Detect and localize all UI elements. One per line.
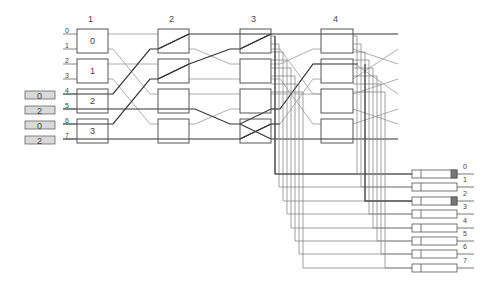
stage-label-2: 2 xyxy=(169,14,174,24)
svg-text:5: 5 xyxy=(65,102,69,109)
stage-1-box-labels: 0 1 2 3 xyxy=(90,36,95,136)
svg-text:6: 6 xyxy=(463,243,467,250)
stage-label-3: 3 xyxy=(251,14,256,24)
svg-text:4: 4 xyxy=(463,217,467,224)
svg-text:4: 4 xyxy=(65,87,69,94)
svg-text:2: 2 xyxy=(37,106,42,116)
output-marker-0 xyxy=(451,170,457,178)
stage4-active-bus xyxy=(365,64,412,201)
svg-text:3: 3 xyxy=(65,72,69,79)
svg-text:2: 2 xyxy=(37,136,42,146)
stage-4-boxes xyxy=(321,29,353,143)
svg-text:2: 2 xyxy=(463,190,467,197)
svg-text:3: 3 xyxy=(463,203,467,210)
output-register-7: 7 xyxy=(412,257,474,272)
svg-text:2: 2 xyxy=(90,96,95,106)
svg-text:1: 1 xyxy=(90,66,95,76)
svg-text:3: 3 xyxy=(90,126,95,136)
svg-text:0: 0 xyxy=(37,91,42,101)
output-registers: 0 1 2 3 4 xyxy=(412,163,474,272)
output-marker-2 xyxy=(451,197,457,205)
svg-text:6: 6 xyxy=(65,117,69,124)
svg-text:1: 1 xyxy=(65,42,69,49)
stage-label-4: 4 xyxy=(333,14,338,24)
svg-text:7: 7 xyxy=(463,257,467,264)
svg-text:0: 0 xyxy=(37,121,42,131)
svg-text:2: 2 xyxy=(65,57,69,64)
stage3-bus xyxy=(271,36,412,268)
stage-label-1: 1 xyxy=(88,14,93,24)
stage4-bus xyxy=(353,36,412,268)
svg-text:0: 0 xyxy=(90,36,95,46)
svg-text:1: 1 xyxy=(463,176,467,183)
svg-text:5: 5 xyxy=(463,230,467,237)
input-tags: 0 2 0 2 xyxy=(25,91,55,146)
switching-network-diagram: 1 2 3 4 0 1 2 3 4 5 6 7 0 2 0 2 xyxy=(0,0,495,285)
input-port-labels: 0 1 2 3 4 5 6 7 xyxy=(65,27,69,139)
svg-text:0: 0 xyxy=(65,27,69,34)
svg-text:7: 7 xyxy=(65,132,69,139)
svg-text:0: 0 xyxy=(463,163,467,170)
